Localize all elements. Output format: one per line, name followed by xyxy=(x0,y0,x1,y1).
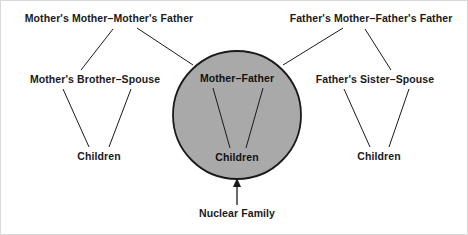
label-mothers-brother-spouse: Mother's Brother–Spouse xyxy=(30,74,160,86)
label-fathers-sister-spouse: Father's Sister–Spouse xyxy=(316,74,435,86)
label-mothers-parents: Mother's Mother–Mother's Father xyxy=(25,13,194,25)
edge-mothers-parents-to-circle xyxy=(137,28,193,65)
label-nuclear-family-callout: Nuclear Family xyxy=(199,208,275,220)
edge-mothers-parents-to-mothers-brother xyxy=(81,29,113,70)
edge-mothers-brother-spouse-to-children-left xyxy=(109,89,131,147)
label-center-mother-father: Mother–Father xyxy=(200,73,274,85)
edge-fathers-sister-to-children-right xyxy=(344,89,370,147)
label-fathers-parents: Father's Mother–Father's Father xyxy=(290,13,453,25)
label-right-children: Children xyxy=(357,151,400,163)
diagram-edges-layer xyxy=(1,1,468,235)
edge-mothers-brother-to-children-left xyxy=(63,89,89,147)
edge-fathers-sister-spouse-to-children-right xyxy=(389,89,409,147)
label-center-children: Children xyxy=(215,152,258,164)
label-left-children: Children xyxy=(77,151,120,163)
kinship-diagram: Mother's Mother–Mother's Father Father's… xyxy=(0,0,468,235)
edge-fathers-parents-to-fathers-sister xyxy=(365,29,391,70)
edge-fathers-parents-to-circle xyxy=(283,28,343,65)
